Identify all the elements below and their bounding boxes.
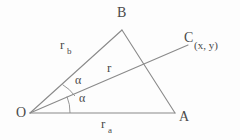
- geometry-diagram: O A B C (x, y) r b r r a α α: [0, 0, 240, 140]
- segment-oa-label: r: [101, 117, 105, 130]
- point-c-coordinates: (x, y): [194, 40, 218, 51]
- segment-ob-subscript: b: [67, 47, 72, 56]
- diagram-canvas: [0, 0, 240, 140]
- point-label-o: O: [16, 106, 26, 120]
- angle-label-upper: α: [75, 74, 81, 86]
- point-label-c: C: [184, 31, 193, 45]
- segment-ob-label: r: [60, 38, 64, 51]
- angle-arc-boc: [63, 85, 75, 96]
- angle-arc-coa: [67, 97, 70, 113]
- segment-oa-subscript: a: [108, 126, 112, 135]
- segment-oc-label: r: [107, 61, 111, 74]
- angle-label-lower: α: [79, 92, 85, 104]
- segment-ab: [122, 30, 175, 113]
- point-label-a: A: [179, 110, 189, 124]
- segment-oc: [30, 45, 188, 113]
- point-label-b: B: [117, 6, 126, 20]
